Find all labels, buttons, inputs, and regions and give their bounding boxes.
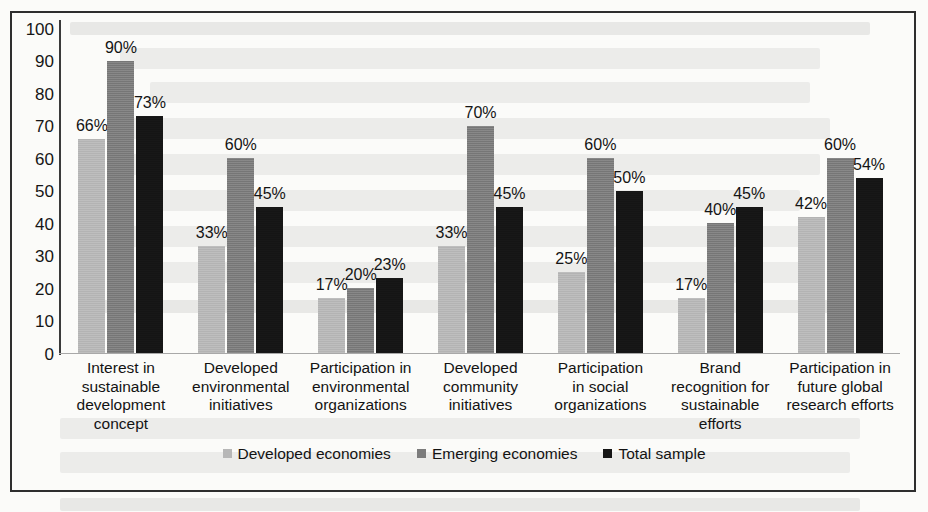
bar-value-label: 45% (493, 186, 525, 202)
category-label-line: future global (782, 378, 898, 397)
bar-value-label: 60% (225, 137, 257, 153)
category-label-line: Participation in (782, 359, 898, 378)
bar-value-label: 25% (555, 251, 587, 267)
bar: 45% (496, 207, 523, 353)
y-tick-100: 100 (16, 21, 54, 38)
category-label-line: Participation in (303, 359, 419, 378)
category-label-line: initiatives (183, 396, 299, 415)
category-label-line: recognition for (662, 378, 778, 397)
bar-groups: 66%90%73%33%60%45%17%20%23%33%70%45%25%6… (61, 28, 900, 353)
chart-legend: Developed economiesEmerging economiesTot… (0, 446, 928, 462)
category-label: Participation inenvironmentalorganizatio… (301, 359, 421, 433)
bar-value-label: 54% (853, 157, 885, 173)
bar-group: 42%60%54% (780, 28, 900, 353)
bar: 17% (678, 298, 705, 353)
category-axis-labels: Interest insustainabledevelopmentconcept… (61, 359, 900, 433)
bar-group: 25%60%50% (540, 28, 660, 353)
bar-value-label: 60% (584, 137, 616, 153)
bar: 45% (736, 207, 763, 353)
bar: 23% (376, 278, 403, 353)
bar: 33% (438, 246, 465, 353)
bar-value-label: 17% (316, 277, 348, 293)
bar-group: 66%90%73% (61, 28, 181, 353)
bar: 45% (256, 207, 283, 353)
legend-swatch-icon (223, 449, 232, 458)
category-label: Developedcommunityinitiatives (421, 359, 541, 433)
bar-value-label: 73% (134, 95, 166, 111)
legend-item[interactable]: Emerging economies (417, 446, 578, 462)
category-label-line: concept (63, 415, 179, 434)
bar-value-label: 90% (105, 40, 137, 56)
bar-value-label: 33% (196, 225, 228, 241)
category-label-line: Developed (423, 359, 539, 378)
y-tick-50: 50 (16, 183, 54, 200)
bar: 60% (227, 158, 254, 353)
category-label-line: Interest in (63, 359, 179, 378)
y-tick-70: 70 (16, 118, 54, 135)
bar-value-label: 45% (733, 186, 765, 202)
category-label: Participationin socialorganizations (540, 359, 660, 433)
y-tick-10: 10 (16, 313, 54, 330)
bar: 90% (107, 61, 134, 354)
bar: 20% (347, 288, 374, 353)
bar-value-label: 66% (76, 118, 108, 134)
legend-swatch-icon (417, 449, 426, 458)
bar: 66% (78, 139, 105, 354)
bar: 17% (318, 298, 345, 353)
category-label-line: sustainable (662, 396, 778, 415)
category-label-line: initiatives (423, 396, 539, 415)
bar-value-label: 70% (464, 105, 496, 121)
bar: 54% (856, 178, 883, 354)
bar: 60% (827, 158, 854, 353)
bar-value-label: 50% (613, 170, 645, 186)
bar: 50% (616, 191, 643, 354)
category-label-line: efforts (662, 415, 778, 434)
bar-group: 17%20%23% (301, 28, 421, 353)
bar-group: 17%40%45% (660, 28, 780, 353)
bar: 42% (798, 217, 825, 354)
bar: 40% (707, 223, 734, 353)
y-tick-0: 0 (16, 346, 54, 363)
y-tick-90: 90 (16, 53, 54, 70)
category-label: Developedenvironmentalinitiatives (181, 359, 301, 433)
category-label-line: environmental (183, 378, 299, 397)
bar-value-label: 60% (824, 137, 856, 153)
bar-group: 33%70%45% (421, 28, 541, 353)
x-axis-line (59, 353, 900, 354)
bar-chart-figure: 100 90 80 70 60 50 40 30 20 10 0 66%90%7… (0, 0, 928, 512)
bar-value-label: 33% (435, 225, 467, 241)
category-label-line: Developed (183, 359, 299, 378)
category-label-line: organizations (303, 396, 419, 415)
bar: 25% (558, 272, 585, 353)
bar-value-label: 45% (254, 186, 286, 202)
category-label-line: community (423, 378, 539, 397)
bar: 60% (587, 158, 614, 353)
category-label-line: Participation (542, 359, 658, 378)
y-tick-80: 80 (16, 86, 54, 103)
category-label-line: environmental (303, 378, 419, 397)
y-tick-30: 30 (16, 248, 54, 265)
bar-value-label: 23% (374, 257, 406, 273)
plot-area: 100 90 80 70 60 50 40 30 20 10 0 66%90%7… (0, 0, 928, 512)
category-label: Participation infuture globalresearch ef… (780, 359, 900, 433)
bar: 73% (136, 116, 163, 353)
y-tick-20: 20 (16, 281, 54, 298)
bar-value-label: 42% (795, 196, 827, 212)
legend-label: Total sample (618, 446, 705, 462)
bar-value-label: 20% (345, 267, 377, 283)
category-label-line: organizations (542, 396, 658, 415)
y-tick-60: 60 (16, 151, 54, 168)
legend-item[interactable]: Total sample (603, 446, 705, 462)
legend-label: Developed economies (238, 446, 391, 462)
category-label: Brandrecognition forsustainableefforts (660, 359, 780, 433)
legend-swatch-icon (603, 449, 612, 458)
legend-label: Emerging economies (432, 446, 578, 462)
legend-item[interactable]: Developed economies (223, 446, 391, 462)
category-label-line: in social (542, 378, 658, 397)
bar-value-label: 40% (704, 202, 736, 218)
category-label-line: development (63, 396, 179, 415)
category-label-line: research efforts (782, 396, 898, 415)
bar: 33% (198, 246, 225, 353)
bar-value-label: 17% (675, 277, 707, 293)
y-tick-40: 40 (16, 216, 54, 233)
